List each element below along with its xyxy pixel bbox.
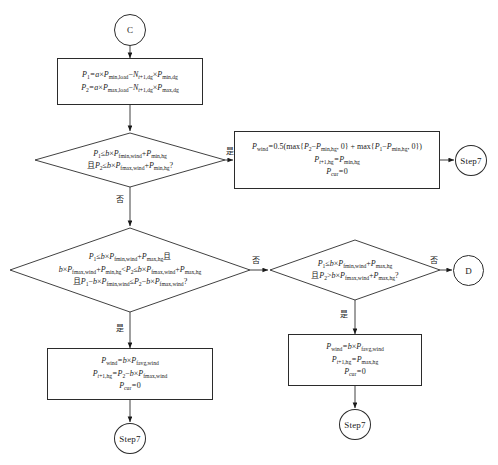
- process-avg-right-line3: Pcur=0: [344, 366, 366, 378]
- decision-3-shape: [270, 240, 440, 300]
- decision-1-shape: [35, 133, 225, 187]
- branch-label-d3-no: 否: [430, 257, 438, 265]
- branch-label-d2-no: 否: [252, 257, 260, 265]
- decision-2-shape: [10, 228, 250, 312]
- process-avg-left[interactable]: Pwind=b×Pfavg,wind Pt+1,hg=P2−b×Pfmax,wi…: [47, 348, 213, 400]
- terminal-d[interactable]: D: [453, 255, 484, 286]
- terminal-step7-bottom-right-label: Step7: [344, 420, 366, 430]
- flowchart-canvas: C P1=a×Pmin,load−Nt+1,dg×Pmin,dg P2=a×Pm…: [0, 0, 498, 465]
- decision-1-line2: 且P2≤b×Pfmax,wind+Pmin,hg?: [87, 160, 173, 172]
- decision-1[interactable]: P1≤b×Pfmin,wind+Pmin,hg 且P2≤b×Pfmax,wind…: [40, 143, 220, 177]
- terminal-step7-bottom-left-label: Step7: [119, 434, 141, 444]
- terminal-step7-bottom-left[interactable]: Step7: [114, 423, 146, 454]
- decision-3[interactable]: P1≤b×Pfmin,wind+Pmax,hg 且P2>b×Pfmax,wind…: [272, 253, 438, 287]
- process-wind-min[interactable]: Pwind=0.5(max{P2−Pmin,hg, 0} + max{P1−Pm…: [234, 131, 440, 189]
- terminal-step7-top-label: Step7: [460, 156, 482, 166]
- decision-2-line3: 且P1−b×Pfmin,wind≤P2−b×Pfmax,wind?: [73, 276, 187, 288]
- branch-label-d1-yes: 是: [226, 148, 234, 156]
- process-avg-left-line2: Pt+1,hg=P2−b×Pfmax,wind: [93, 368, 168, 380]
- decision-2-line1: P1≤b×Pfmin,wind+Pmax,hg且: [89, 251, 172, 263]
- branch-label-d1-no: 否: [116, 196, 124, 204]
- branch-label-d3-yes: 是: [340, 311, 348, 319]
- process-avg-right-line1: Pwind=b×Pfavg,wind: [326, 341, 384, 353]
- decision-1-line1: P1≤b×Pfmin,wind+Pmin,hg: [93, 148, 167, 160]
- process-avg-left-line3: Pcur=0: [119, 380, 141, 392]
- decision-3-line2: 且P2>b×Pfmax,wind+Pmax,hg?: [311, 270, 398, 282]
- process-wind-min-line2: Pt+1,hg=Pmin,hg: [314, 154, 360, 166]
- terminal-d-label: D: [465, 266, 472, 276]
- decision-2-line2: b×Pfmax,wind+Pmin,hg<P2≤b×Pfmax,wind+Pma…: [59, 264, 202, 276]
- terminal-step7-top[interactable]: Step7: [455, 145, 487, 176]
- start-terminal-label: C: [127, 25, 133, 35]
- process-p1-p2[interactable]: P1=a×Pmin,load−Nt+1,dg×Pmin,dg P2=a×Pmax…: [57, 58, 203, 105]
- terminal-step7-bottom-right[interactable]: Step7: [339, 409, 371, 440]
- process-avg-right[interactable]: Pwind=b×Pfavg,wind Pt+1,hg=Pmax,hg Pcur=…: [288, 334, 422, 386]
- process-p1-p2-line2: P2=a×Pmax,load−Nt+1,dg×Pmax,dg: [81, 82, 179, 94]
- decision-2[interactable]: P1≤b×Pfmin,wind+Pmax,hg且 b×Pfmax,wind+Pm…: [12, 245, 248, 295]
- start-terminal-c[interactable]: C: [114, 14, 146, 46]
- branch-label-d2-yes: 是: [116, 325, 124, 333]
- process-avg-left-line1: Pwind=b×Pfavg,wind: [101, 355, 159, 367]
- process-avg-right-line2: Pt+1,hg=Pmax,hg: [332, 354, 378, 366]
- process-wind-min-line3: Pcur=0: [326, 166, 348, 178]
- process-wind-min-line1: Pwind=0.5(max{P2−Pmin,hg, 0} + max{P1−Pm…: [252, 141, 422, 153]
- decision-3-line1: P1≤b×Pfmin,wind+Pmax,hg: [318, 258, 393, 270]
- process-p1-p2-line1: P1=a×Pmin,load−Nt+1,dg×Pmin,dg: [82, 69, 178, 81]
